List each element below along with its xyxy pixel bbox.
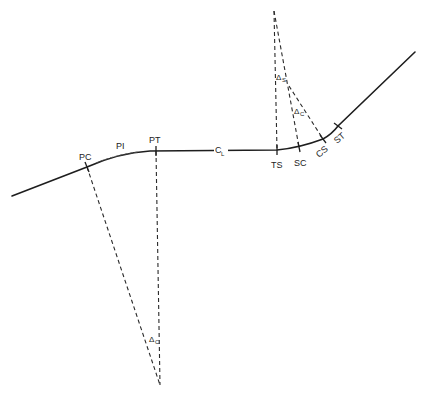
label-pi: PI xyxy=(116,141,125,151)
label-cs: CS xyxy=(314,144,330,160)
svg-text:S: S xyxy=(282,77,286,83)
label-delta-s: Δ S xyxy=(276,73,286,83)
radius-line-pt xyxy=(156,151,160,385)
radius-line-pc xyxy=(87,167,160,385)
label-delta-c-upper: Δ C xyxy=(294,107,305,117)
label-sc: SC xyxy=(294,158,307,168)
label-pt: PT xyxy=(149,135,161,145)
centerline-symbol: C L xyxy=(214,142,228,157)
svg-text:C: C xyxy=(155,339,160,345)
label-st: ST xyxy=(332,130,348,145)
label-pc: PC xyxy=(79,152,92,162)
centerline-road xyxy=(12,52,415,196)
label-delta-c-lower: Δ C xyxy=(149,335,160,345)
svg-text:C: C xyxy=(300,111,305,117)
alignment-diagram: PC PI PT C L TS SC CS ST Δ S Δ C Δ C xyxy=(0,0,428,400)
label-ts: TS xyxy=(271,160,283,170)
